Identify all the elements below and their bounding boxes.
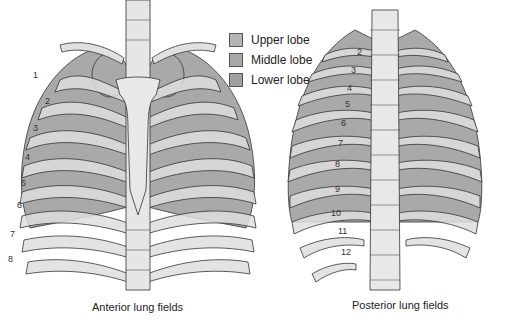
svg-text:4: 4 — [25, 152, 30, 162]
svg-text:7: 7 — [10, 229, 15, 239]
legend-item-middle-lobe: Middle lobe — [229, 50, 312, 70]
vertebral-column — [370, 10, 400, 290]
svg-text:9: 9 — [335, 184, 340, 194]
svg-text:11: 11 — [338, 226, 347, 236]
svg-text:6: 6 — [341, 118, 346, 128]
legend: Upper lobe Middle lobe Lower lobe — [229, 30, 312, 90]
lower-lobe-swatch — [229, 73, 243, 87]
legend-item-upper-lobe: Upper lobe — [229, 30, 312, 50]
svg-text:5: 5 — [345, 99, 350, 109]
anterior-caption: Anterior lung fields — [92, 301, 183, 313]
svg-text:4: 4 — [347, 83, 352, 93]
svg-text:2: 2 — [45, 96, 50, 106]
legend-label: Middle lobe — [251, 53, 312, 67]
legend-label: Upper lobe — [251, 33, 310, 47]
svg-text:3: 3 — [351, 65, 356, 75]
svg-text:10: 10 — [331, 208, 341, 218]
legend-item-lower-lobe: Lower lobe — [229, 70, 312, 90]
anterior-thorax — [20, 0, 256, 290]
upper-lobe-swatch — [229, 33, 243, 47]
svg-text:8: 8 — [8, 254, 13, 264]
svg-text:7: 7 — [338, 138, 343, 148]
svg-text:2: 2 — [357, 47, 362, 57]
svg-text:12: 12 — [341, 247, 351, 257]
svg-text:6: 6 — [17, 200, 22, 210]
posterior-caption: Posterior lung fields — [352, 299, 449, 311]
legend-label: Lower lobe — [251, 73, 310, 87]
middle-lobe-swatch — [229, 53, 243, 67]
posterior-thorax — [288, 10, 482, 290]
svg-text:3: 3 — [33, 123, 38, 133]
svg-text:8: 8 — [335, 159, 340, 169]
svg-text:1: 1 — [33, 70, 38, 80]
svg-text:5: 5 — [21, 178, 26, 188]
